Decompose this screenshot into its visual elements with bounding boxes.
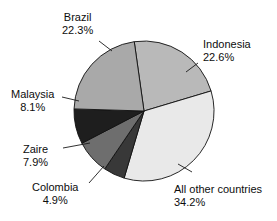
pie-label-all-other-countries: All other countries34.2% xyxy=(174,183,262,208)
pie-label-value: 22.3% xyxy=(62,24,93,37)
pie-label-indonesia: Indonesia22.6% xyxy=(203,38,251,63)
leader-line-colombia xyxy=(89,166,104,183)
pie-chart: Indonesia22.6%All other countries34.2%Co… xyxy=(0,0,277,221)
pie-label-value: 7.9% xyxy=(23,156,48,169)
pie-label-name: Indonesia xyxy=(203,38,251,51)
pie-label-name: All other countries xyxy=(174,183,262,196)
pie-slice-group xyxy=(74,41,214,181)
pie-label-name: Brazil xyxy=(62,11,93,24)
pie-label-name: Malaysia xyxy=(11,88,54,101)
pie-label-colombia: Colombia4.9% xyxy=(32,181,78,206)
pie-label-malaysia: Malaysia8.1% xyxy=(11,88,54,113)
pie-label-zaire: Zaire7.9% xyxy=(23,143,48,168)
pie-slice-brazil[interactable] xyxy=(74,42,144,111)
pie-label-brazil: Brazil22.3% xyxy=(62,11,93,36)
pie-label-name: Colombia xyxy=(32,181,78,194)
pie-label-value: 8.1% xyxy=(11,101,54,114)
leader-line-brazil xyxy=(99,41,112,51)
pie-label-name: Zaire xyxy=(23,143,48,156)
pie-label-value: 34.2% xyxy=(174,196,262,209)
pie-label-value: 22.6% xyxy=(203,51,251,64)
pie-label-value: 4.9% xyxy=(32,194,78,207)
